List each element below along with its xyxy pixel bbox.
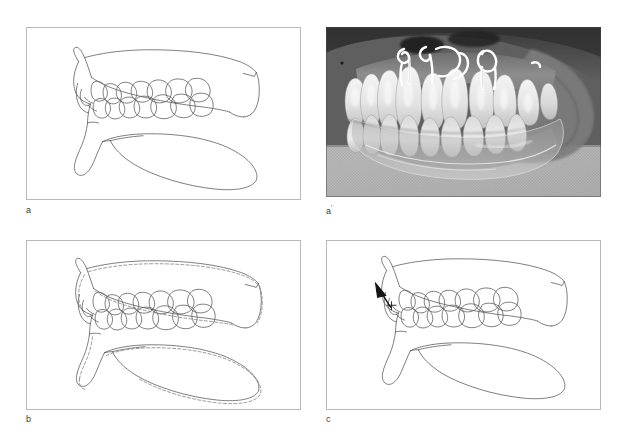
dental-cast-photograph [326,27,601,197]
dental-arch-drawing-c [327,241,600,409]
panel-a-prime-label: a' [326,203,332,216]
panel-b-label: b [26,415,31,424]
figure-sheet: a [0,0,619,435]
dental-arch-drawing-b [27,241,300,409]
panel-c-frame [326,240,601,410]
dental-arch-drawing-a [27,28,300,199]
panel-a-prime-photo [326,27,601,197]
movement-arrow [376,283,391,307]
panel-a-label: a [26,206,31,215]
panel-a-prime-label-prime: ' [331,204,332,211]
panel-a-frame [26,27,301,200]
panel-b-frame [26,240,301,410]
panel-c-label: c [326,415,331,424]
